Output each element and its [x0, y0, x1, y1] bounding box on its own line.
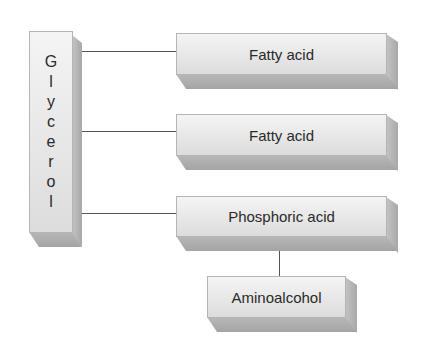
phosphoric-acid-label: Phosphoric acid: [176, 196, 387, 237]
fatty-acid-label-1: Fatty acid: [176, 33, 387, 75]
glycerol-letter: o: [47, 172, 56, 192]
connector-aminoalcohol: [279, 249, 280, 277]
glycerol-letter: c: [47, 112, 55, 132]
box-bottom: [207, 317, 357, 332]
glycerol-letter: e: [47, 132, 56, 152]
glycerol-box-side: [72, 35, 82, 247]
connector-fatty-acid-1: [82, 51, 177, 52]
glycerol-letter: G: [45, 52, 57, 72]
box-bottom: [176, 155, 398, 170]
glycerol-label: G l y c e r o l: [29, 31, 73, 233]
aminoalcohol-label: Aminoalcohol: [207, 276, 346, 318]
box-bottom: [176, 74, 398, 89]
glycerol-letter: l: [49, 192, 53, 212]
glycerol-letter: y: [47, 92, 55, 112]
fatty-acid-label-2: Fatty acid: [176, 114, 387, 156]
connector-phosphoric-acid: [82, 213, 177, 214]
box-bottom: [176, 236, 398, 251]
glycerol-letter: l: [49, 72, 53, 92]
glycerol-letter: r: [48, 152, 53, 172]
connector-fatty-acid-2: [82, 131, 177, 132]
